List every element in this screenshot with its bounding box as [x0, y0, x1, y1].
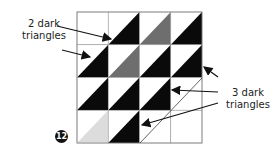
- grid-cell: [77, 12, 108, 45]
- grid-cell: [140, 110, 171, 143]
- figure-number-badge: 12: [55, 130, 68, 143]
- arrow-right-1: [204, 67, 218, 77]
- label-3-dark-triangles: 3 dark triangles: [220, 87, 276, 111]
- triangle-grid: [77, 12, 202, 143]
- label-2-dark-triangles: 2 dark triangles: [14, 18, 74, 42]
